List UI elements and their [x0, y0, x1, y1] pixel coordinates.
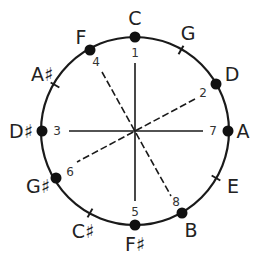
- note-dot-icon: [130, 32, 141, 43]
- note-label: G♯: [26, 175, 50, 197]
- step-number-label: 7: [209, 124, 217, 138]
- note-dot-icon: [223, 126, 234, 137]
- step-number-label: 4: [92, 55, 100, 69]
- note-dot-icon: [37, 126, 48, 137]
- step-number-label: 1: [131, 46, 139, 60]
- note-dot-icon: [211, 79, 222, 90]
- note-label: C♯: [72, 220, 94, 242]
- note-label: F: [76, 26, 87, 48]
- note-label: A♯: [31, 63, 53, 85]
- note-label: D: [225, 63, 240, 85]
- note-label: D♯: [9, 120, 33, 142]
- note-dot-icon: [130, 220, 141, 231]
- step-number-label: 5: [131, 205, 139, 219]
- note-label: A: [237, 120, 250, 142]
- note-dot-icon: [177, 208, 188, 219]
- note-dot-icon: [51, 173, 62, 184]
- note-label: E: [227, 175, 239, 197]
- note-label: C: [128, 7, 141, 29]
- line-4-to-8: [102, 72, 171, 196]
- note-label: B: [184, 219, 197, 241]
- step-number-label: 8: [172, 195, 180, 209]
- step-number-label: 2: [199, 86, 207, 100]
- circle-of-fifths-diagram: CGDAEBF♯C♯G♯D♯A♯F 12345678: [0, 0, 263, 260]
- step-number-label: 3: [53, 124, 61, 138]
- connecting-lines: [69, 63, 203, 201]
- note-label: F♯: [125, 233, 145, 255]
- note-label: G: [181, 22, 196, 44]
- step-number-label: 6: [66, 165, 74, 179]
